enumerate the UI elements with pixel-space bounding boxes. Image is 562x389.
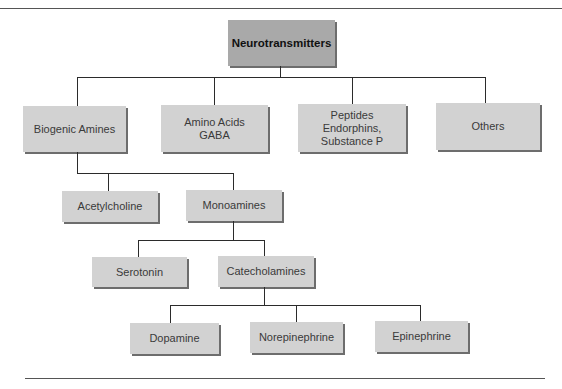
node-monoamines: Monoamines [186, 190, 282, 221]
top-rule [0, 8, 562, 9]
connector [296, 305, 297, 322]
node-label: Neurotransmitters [232, 37, 332, 50]
node-epinephrine: Epinephrine [375, 321, 468, 352]
connector [138, 240, 265, 241]
node-label: Norepinephrine [259, 331, 334, 344]
node-peptides: Peptides Endorphins, Substance P [298, 104, 406, 152]
connector [352, 77, 353, 104]
connector [108, 173, 109, 191]
connector [170, 305, 171, 323]
connector [233, 221, 234, 240]
connector [233, 173, 234, 190]
connector [77, 173, 234, 174]
connector [77, 77, 78, 106]
connector [280, 66, 281, 77]
connector [77, 152, 78, 173]
connector [420, 305, 421, 321]
connector [485, 77, 486, 103]
node-label: Amino Acids GABA [184, 116, 245, 142]
node-label: Serotonin [116, 266, 163, 279]
connector [138, 240, 139, 257]
bottom-rule [25, 378, 545, 379]
node-acetylcholine: Acetylcholine [62, 191, 158, 222]
node-label: Epinephrine [392, 330, 451, 343]
node-amino-acids: Amino Acids GABA [161, 105, 268, 152]
node-dopamine: Dopamine [130, 323, 219, 354]
connector [264, 287, 265, 305]
node-neurotransmitters: Neurotransmitters [228, 20, 335, 66]
node-catecholamines: Catecholamines [218, 256, 314, 287]
node-label: Dopamine [149, 332, 199, 345]
node-others: Others [436, 103, 540, 150]
node-biogenic-amines: Biogenic Amines [23, 106, 126, 152]
connector [214, 77, 215, 105]
node-label: Peptides Endorphins, Substance P [321, 109, 383, 148]
connector [77, 77, 486, 78]
connector [264, 240, 265, 256]
node-label: Biogenic Amines [34, 123, 115, 136]
node-serotonin: Serotonin [92, 257, 187, 287]
node-label: Acetylcholine [78, 200, 143, 213]
node-norepinephrine: Norepinephrine [250, 322, 343, 353]
node-label: Monoamines [203, 199, 266, 212]
node-label: Catecholamines [227, 265, 306, 278]
node-label: Others [471, 120, 504, 133]
